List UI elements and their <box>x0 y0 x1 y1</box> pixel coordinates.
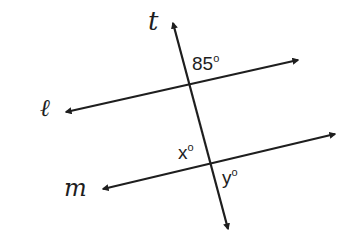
angle-x-label: xo <box>178 143 194 162</box>
line-m <box>103 134 335 189</box>
label-t: t <box>148 8 158 34</box>
angle-85-label: 85o <box>192 54 219 73</box>
label-l: ℓ <box>40 96 50 120</box>
degree-symbol: o <box>213 52 219 64</box>
angle-85-value: 85 <box>192 53 213 74</box>
degree-symbol: o <box>188 141 194 153</box>
lines-layer <box>0 0 353 247</box>
line-l <box>66 60 298 112</box>
label-m: m <box>64 176 87 200</box>
angle-y-label: yo <box>222 168 238 187</box>
angle-x-value: x <box>178 142 188 163</box>
degree-symbol: o <box>232 166 238 178</box>
diagram-canvas: t ℓ m 85o xo yo <box>0 0 353 247</box>
angle-y-value: y <box>222 167 232 188</box>
